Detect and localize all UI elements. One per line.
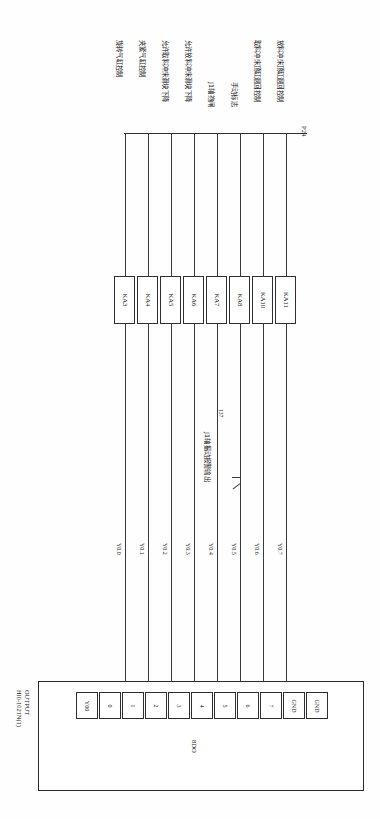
- terminal-label: GND: [314, 699, 320, 712]
- terminal-5[interactable]: 5: [214, 692, 236, 719]
- function-label-5: 手动标志: [230, 82, 239, 107]
- module-title-line2: HI0-1021N(1): [15, 690, 23, 727]
- wire-bottom-2: [171, 324, 172, 681]
- wire-bottom-4: [217, 324, 218, 681]
- function-label-2: 允许取料冲床滑块下降: [161, 40, 170, 102]
- terminal-4[interactable]: 4: [191, 692, 213, 719]
- relay-label: KA4: [144, 294, 151, 307]
- relay-box-ka10[interactable]: KA10: [252, 276, 273, 324]
- wire-top-7: [286, 133, 287, 276]
- relay-box-ka4[interactable]: KA4: [137, 276, 158, 324]
- relay-label: KA5: [167, 294, 174, 307]
- terminal-gnd-1[interactable]: GND: [283, 692, 305, 719]
- module-title-line1: OUTPUT: [23, 690, 31, 727]
- terminal-0[interactable]: 0: [99, 692, 121, 719]
- wire-top-0: [125, 133, 126, 276]
- relay-label: KA3: [121, 294, 128, 307]
- terminal-1[interactable]: 1: [122, 692, 144, 719]
- terminal-label: GND: [291, 699, 297, 712]
- wire-top-4: [217, 133, 218, 276]
- function-label-0: 旋转气缸控制: [115, 40, 124, 77]
- wire-top-1: [148, 133, 149, 276]
- relay-box-ka5[interactable]: KA5: [160, 276, 181, 324]
- wire-top-5: [240, 133, 241, 276]
- terminal-label: 3: [176, 704, 182, 707]
- relay-label: KA7: [213, 294, 220, 307]
- relay-box-ka11[interactable]: KA11: [275, 276, 296, 324]
- relay-label: KA6: [190, 294, 197, 307]
- wire-bottom-7: [286, 324, 287, 681]
- terminal-gnd-2[interactable]: GND: [306, 692, 328, 719]
- schematic-sheet: 旋转气缸控制 夹紧气缸控制 允许取料冲床滑块下降 允许放料冲床滑块下降 J1轴抱…: [0, 0, 380, 819]
- wire-top-3: [194, 133, 195, 276]
- relay-box-ka8[interactable]: KA8: [229, 276, 250, 324]
- terminal-label: Y00: [84, 700, 90, 710]
- terminal-label: 1: [130, 704, 136, 707]
- module-bus-label: 8DO: [191, 740, 198, 753]
- wire-tag-5: Y0.5: [231, 543, 237, 555]
- power-rail-p24: [124, 133, 302, 134]
- wire-tag-3: Y0.3: [185, 543, 191, 555]
- wire-bottom-3: [194, 324, 195, 681]
- terminal-label: 7: [268, 704, 274, 707]
- wire-tag-2: Y0.2: [162, 543, 168, 555]
- wire-tag-0: Y0.0: [116, 543, 122, 555]
- power-rail-label: P24: [301, 126, 308, 136]
- wire-bottom-6: [263, 324, 264, 681]
- terminal-3[interactable]: 3: [168, 692, 190, 719]
- function-label-3: 允许放料冲床滑块下降: [184, 40, 193, 102]
- power-rail-stub: [300, 133, 307, 134]
- relay-label: KA11: [282, 292, 289, 308]
- annotation-text: J1轴振动报警输出: [203, 432, 212, 482]
- relay-box-ka6[interactable]: KA6: [183, 276, 204, 324]
- terminal-label: 2: [153, 704, 159, 707]
- terminal-label: 4: [199, 704, 205, 707]
- wire-top-6: [263, 133, 264, 276]
- module-title: OUTPUT HI0-1021N(1): [15, 690, 31, 727]
- wire-bottom-5: [240, 324, 241, 681]
- function-label-6: 取料冲床顶缸退回控制: [253, 40, 262, 102]
- terminal-label: 6: [245, 704, 251, 707]
- relay-label: KA8: [236, 294, 243, 307]
- wire-bottom-0: [125, 324, 126, 681]
- function-label-1: 夹紧气缸控制: [138, 40, 147, 77]
- function-label-4: J1轴抱闸: [207, 82, 216, 107]
- contact-tap-stub: [232, 477, 240, 478]
- wire-tag-4: Y0.4: [208, 543, 214, 555]
- function-label-7: 放料冲床顶缸退回控制: [276, 40, 285, 102]
- wire-bottom-1: [148, 324, 149, 681]
- wire-tag-6: Y0.6: [254, 543, 260, 555]
- terminal-6[interactable]: 6: [237, 692, 259, 719]
- relay-box-ka3[interactable]: KA3: [114, 276, 135, 324]
- annotation-number: 137: [218, 409, 224, 417]
- terminal-label: 0: [107, 704, 113, 707]
- wire-tag-1: Y0.1: [139, 543, 145, 555]
- terminal-y00[interactable]: Y00: [76, 692, 98, 719]
- relay-label: KA10: [259, 292, 266, 308]
- terminal-7[interactable]: 7: [260, 692, 282, 719]
- terminal-label: 5: [222, 704, 228, 707]
- wire-tag-7: Y0.7: [277, 543, 283, 555]
- terminal-2[interactable]: 2: [145, 692, 167, 719]
- relay-box-ka7[interactable]: KA7: [206, 276, 227, 324]
- wire-top-2: [171, 133, 172, 276]
